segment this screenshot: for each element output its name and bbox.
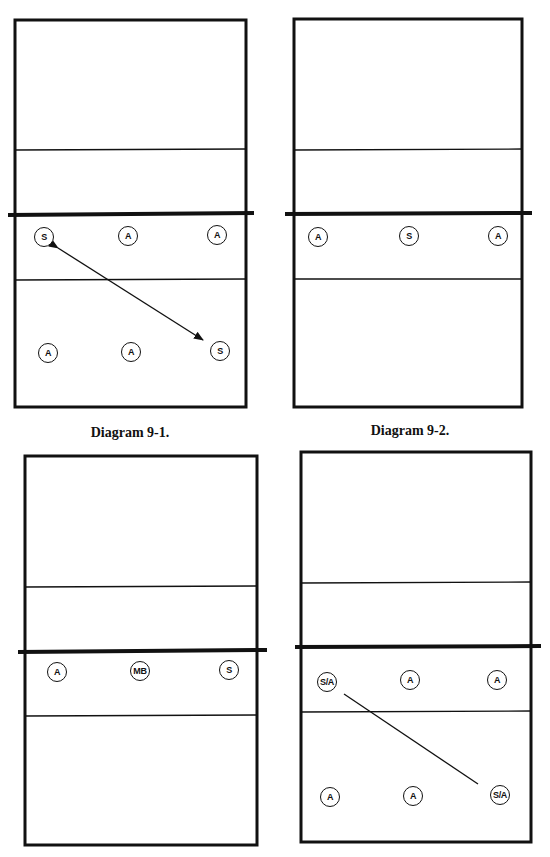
player-attacker: A [487, 670, 507, 690]
attack-line-near [301, 711, 531, 712]
court-diagram-9-4 [295, 452, 541, 842]
player-setter: S [219, 660, 239, 680]
net-line [8, 213, 254, 215]
player-attacker: A [207, 225, 227, 245]
player-setter: S [34, 227, 54, 247]
attack-line-far [15, 149, 246, 150]
attack-line-far [294, 149, 522, 150]
attack-line-near [25, 715, 257, 716]
net-line [18, 650, 267, 652]
attack-line-far [25, 586, 257, 587]
player-attacker: A [308, 227, 328, 247]
player-attacker: A [488, 226, 508, 246]
player-attacker: A [118, 226, 138, 246]
court-diagram-9-2 [285, 19, 532, 407]
setter-attacker-connector-line [344, 694, 478, 784]
player-setter: S [210, 341, 230, 361]
player-middle-blocker: MB [130, 661, 150, 681]
court-diagram-9-3 [18, 456, 267, 845]
player-setter-attacker: S/A [490, 785, 510, 805]
court-diagrams [0, 0, 550, 857]
setter-switch-double-arrow [58, 248, 203, 340]
player-attacker: A [38, 343, 58, 363]
attack-line-far [301, 582, 531, 583]
player-attacker: A [121, 342, 141, 362]
caption-diagram-9-2: Diagram 9-2. [371, 423, 450, 439]
player-setter: S [399, 226, 419, 246]
net-line [295, 646, 541, 647]
net-line [285, 213, 532, 214]
player-attacker: A [47, 662, 67, 682]
player-attacker: A [320, 787, 340, 807]
attack-line-near [15, 279, 246, 280]
player-attacker: A [400, 670, 420, 690]
player-setter-attacker: S/A [317, 672, 337, 692]
caption-diagram-9-1: Diagram 9-1. [91, 425, 170, 441]
player-attacker: A [403, 786, 423, 806]
